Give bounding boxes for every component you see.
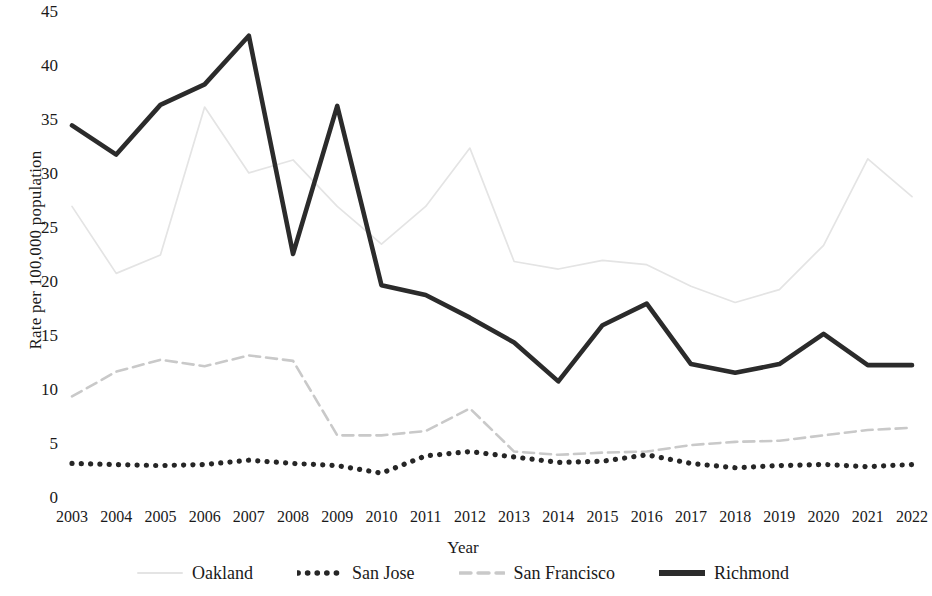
legend-label: San Francisco [514, 564, 615, 582]
x-axis-label: Year [0, 538, 926, 558]
chart-legend: OaklandSan JoseSan FranciscoRichmond [0, 564, 926, 582]
legend-label: San Jose [352, 564, 415, 582]
legend-label: Richmond [714, 564, 789, 582]
legend-swatch-san-jose-icon [297, 566, 343, 580]
legend-label: Oakland [192, 564, 253, 582]
legend-item-san-jose[interactable]: San Jose [297, 564, 415, 582]
series-line-san-francisco [72, 355, 912, 454]
legend-item-richmond[interactable]: Richmond [659, 564, 789, 582]
legend-swatch-richmond-icon [659, 566, 705, 580]
legend-swatch-oakland-icon [137, 566, 183, 580]
legend-item-oakland[interactable]: Oakland [137, 564, 253, 582]
series-line-oakland [72, 107, 912, 302]
legend-item-san-francisco[interactable]: San Francisco [459, 564, 615, 582]
legend-swatch-san-francisco-icon [459, 566, 505, 580]
series-line-richmond [72, 36, 912, 382]
series-line-san-jose [72, 452, 912, 474]
